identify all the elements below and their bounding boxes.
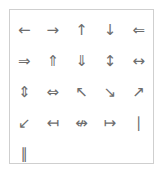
left-right-arrow-from-bar-icon: ↮: [75, 116, 88, 131]
glyph-cell: ↦: [96, 108, 125, 139]
glyph-cell: →: [39, 15, 68, 46]
glyph-cell: ↖: [67, 77, 96, 108]
downwards-arrow-icon: ↓: [104, 23, 117, 38]
upwards-arrow-icon: ↑: [75, 23, 88, 38]
glyph-cell: ↗: [124, 77, 153, 108]
glyph-cell: ↮: [67, 108, 96, 139]
glyph-cell: ⇑: [39, 46, 68, 77]
glyph-cell: ↙: [10, 108, 39, 139]
glyph-cell: ⇒: [10, 46, 39, 77]
downwards-double-arrow-icon: ⇓: [75, 54, 88, 69]
rightwards-arrow-icon: →: [47, 23, 60, 38]
rightwards-double-arrow-icon: ⇒: [18, 54, 31, 69]
glyph-cell: ⇓: [67, 46, 96, 77]
left-right-double-arrow-icon: ⇔: [47, 85, 60, 100]
upwards-double-arrow-icon: ⇑: [47, 54, 60, 69]
north-east-arrow-icon: ↗: [132, 85, 145, 100]
leftwards-arrow-from-bar-icon: ↤: [47, 116, 60, 131]
glyph-cell: ←: [10, 15, 39, 46]
glyph-cell: ↘: [96, 77, 125, 108]
glyph-cell: ⇐: [124, 15, 153, 46]
glyph-cell: ↓: [96, 15, 125, 46]
rightwards-arrow-from-bar-icon: ↦: [104, 116, 117, 131]
up-down-arrow-icon: ↕: [104, 54, 117, 69]
glyph-cell: ↤: [39, 108, 68, 139]
south-west-arrow-icon: ↙: [18, 116, 31, 131]
glyph-cell: ↑: [67, 15, 96, 46]
glyph-cell: ↔: [124, 46, 153, 77]
leftwards-arrow-icon: ←: [18, 23, 31, 38]
glyph-grid: ←→↑↓⇐⇒⇑⇓↕↔⇕⇔↖↘↗↙↤↮↦∣∥: [10, 10, 153, 170]
double-vertical-bar-icon: ∥: [21, 147, 29, 162]
glyph-cell: ∥: [10, 139, 39, 170]
leftwards-double-arrow-icon: ⇐: [132, 23, 145, 38]
vertical-bar-icon: ∣: [135, 116, 143, 131]
left-right-arrow-icon: ↔: [132, 54, 145, 69]
glyph-cell: ⇔: [39, 77, 68, 108]
glyph-cell: ∣: [124, 108, 153, 139]
south-east-arrow-icon: ↘: [104, 85, 117, 100]
glyph-cell: ↕: [96, 46, 125, 77]
north-west-arrow-icon: ↖: [75, 85, 88, 100]
glyph-panel: ←→↑↓⇐⇒⇑⇓↕↔⇕⇔↖↘↗↙↤↮↦∣∥: [9, 9, 154, 164]
up-down-double-arrow-icon: ⇕: [18, 85, 31, 100]
glyph-cell: ⇕: [10, 77, 39, 108]
